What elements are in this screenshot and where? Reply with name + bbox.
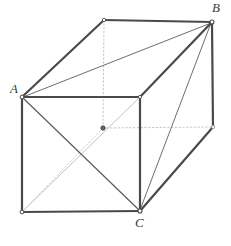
diagonal-A-to-B — [23, 23, 211, 97]
vertex-label-c: C — [135, 216, 144, 229]
vertex-back-top-right-marker — [210, 20, 214, 24]
vertex-label-b: B — [212, 1, 220, 14]
vertex-front-top-left-marker — [20, 95, 24, 99]
center-point-marker — [101, 126, 105, 130]
dotted-vertical-back-top-left-to-center — [103, 20, 104, 128]
vertex-front-top-right-marker — [138, 95, 141, 98]
geometry-figure-container: A B C — [0, 0, 231, 246]
vertex-label-a: A — [10, 82, 18, 95]
dotted-center-to-front-bottom-left — [22, 128, 103, 212]
diagonal-C-to-B — [140, 23, 211, 210]
dotted-horizontal-center-to-back-bottom-right — [103, 127, 213, 128]
back-top-edge — [104, 20, 212, 22]
prism-diagram-svg — [0, 0, 231, 246]
hidden-construction-lines — [22, 20, 213, 212]
prism-solid-edges — [22, 20, 213, 212]
vertex-back-bottom-right-marker — [211, 125, 214, 128]
top-left-slant-edge — [22, 20, 104, 97]
back-right-vertical-edge — [212, 22, 213, 127]
vertex-front-bottom-right-marker — [138, 209, 142, 213]
vertex-back-top-left-marker — [102, 18, 105, 21]
vertex-markers — [20, 18, 214, 214]
top-right-slant-edge — [140, 22, 212, 97]
front-bottom-edge — [22, 211, 140, 212]
vertex-front-bottom-left-marker — [20, 210, 24, 214]
bottom-right-slant-edge — [140, 127, 213, 211]
